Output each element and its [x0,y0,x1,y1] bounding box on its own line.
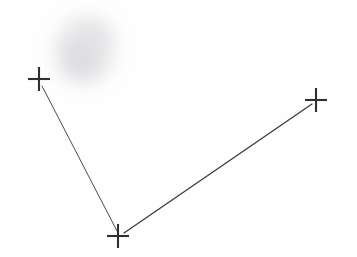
segment-left-arm [42,86,117,231]
segment-right-arm [124,104,312,233]
angle-arms-group [42,86,312,233]
angle-figure [0,0,357,257]
drawing-canvas [0,0,357,257]
graphite-smudge-group [55,16,115,84]
graphite-smudge-tail-icon [80,21,112,49]
vertex-markers-group [28,67,327,248]
plus-marker-bottom-icon [107,224,129,248]
plus-marker-right-icon [305,88,327,112]
plus-marker-left-icon [28,67,50,91]
